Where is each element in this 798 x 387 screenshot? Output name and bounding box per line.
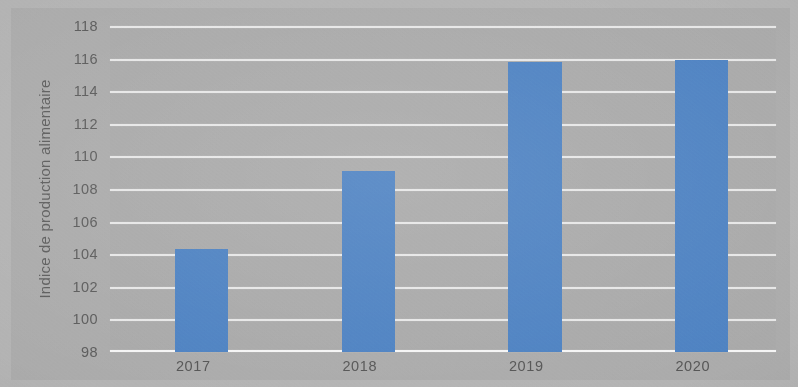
bars-layer xyxy=(110,26,776,352)
y-tick-label: 98 xyxy=(52,344,98,360)
y-tick-label: 112 xyxy=(52,116,98,132)
bar-2019[interactable] xyxy=(508,62,562,352)
x-tick-label-2017: 2017 xyxy=(176,358,211,374)
y-tick-label: 102 xyxy=(52,279,98,295)
plot-area xyxy=(110,26,776,352)
chart-screenshot: Indice de production alimentaire 118 116… xyxy=(0,0,798,387)
y-tick-label: 110 xyxy=(52,148,98,164)
x-tick-label-2018: 2018 xyxy=(342,358,377,374)
bar-2020[interactable] xyxy=(675,60,728,352)
y-tick-label: 114 xyxy=(52,83,98,99)
bar-2017[interactable] xyxy=(175,249,228,352)
bar-2018[interactable] xyxy=(342,171,395,352)
y-tick-label: 118 xyxy=(52,18,98,34)
y-tick-label: 100 xyxy=(52,311,98,327)
y-tick-label: 104 xyxy=(52,246,98,262)
y-tick-label: 106 xyxy=(52,214,98,230)
y-tick-label: 108 xyxy=(52,181,98,197)
x-tick-label-2019: 2019 xyxy=(509,358,544,374)
y-tick-label: 116 xyxy=(52,51,98,67)
x-tick-label-2020: 2020 xyxy=(675,358,710,374)
y-axis-tick-labels: 118 116 114 112 110 108 106 104 102 100 … xyxy=(52,26,98,352)
x-axis-tick-labels: 2017 2018 2019 2020 xyxy=(110,358,776,384)
